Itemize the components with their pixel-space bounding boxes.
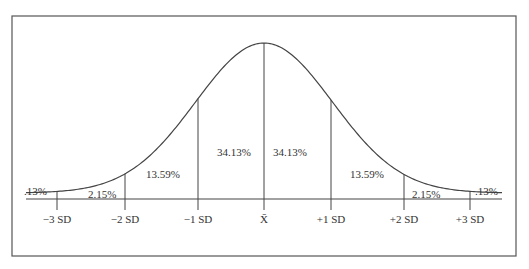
tick-label-plus2sd: +2 SD <box>390 213 419 225</box>
tick-label-plus1sd: +1 SD <box>317 213 346 225</box>
pct-label-minus3-minus2: 2.15% <box>88 188 116 200</box>
pct-label-plus1-plus2: 13.59% <box>350 168 384 180</box>
pct-label-mean-plus1: 34.13% <box>273 146 307 158</box>
pct-label-right-tail: .13% <box>475 185 498 197</box>
tick-label-minus1sd: −1 SD <box>184 213 213 225</box>
pct-label-minus2-minus1: 13.59% <box>146 168 180 180</box>
pct-label-left-tail: .13% <box>24 185 47 197</box>
tick-label-minus2sd: −2 SD <box>111 213 140 225</box>
pct-label-minus1-mean: 34.13% <box>217 146 251 158</box>
tick-label-mean: X̄ <box>260 213 268 225</box>
tick-label-plus3sd: +3 SD <box>456 213 485 225</box>
sd-lines <box>57 43 470 210</box>
normal-distribution-diagram: .13% 2.15% 13.59% 34.13% 34.13% 13.59% 2… <box>0 0 529 269</box>
pct-label-plus2-plus3: 2.15% <box>412 188 440 200</box>
tick-label-minus3sd: −3 SD <box>43 213 72 225</box>
